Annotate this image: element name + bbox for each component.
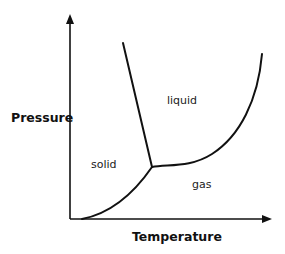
region-label-gas: gas bbox=[192, 178, 212, 191]
solid-liquid-curve bbox=[123, 43, 152, 167]
liquid-gas-curve bbox=[152, 54, 262, 167]
solid-gas-curve bbox=[82, 167, 152, 219]
y-axis-arrow-icon bbox=[66, 14, 74, 24]
x-axis-arrow-icon bbox=[262, 215, 272, 223]
region-label-solid: solid bbox=[91, 158, 117, 171]
x-axis-label: Temperature bbox=[132, 229, 222, 244]
y-axis-label: Pressure bbox=[11, 110, 73, 125]
phase-diagram: Pressure Temperature liquid solid gas bbox=[0, 0, 285, 254]
region-label-liquid: liquid bbox=[167, 94, 197, 107]
